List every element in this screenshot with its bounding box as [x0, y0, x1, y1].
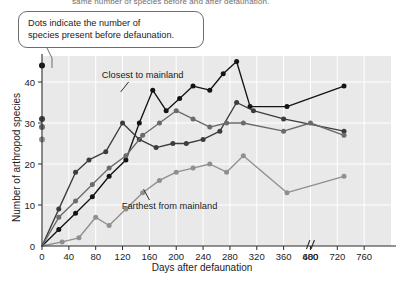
x-tick-label: 360 — [276, 251, 292, 262]
x-tick-label: 80 — [90, 251, 101, 262]
y-tick-label: 30 — [24, 118, 35, 129]
x-tick-label: 120 — [115, 251, 131, 262]
x-tick-label: 680 — [303, 251, 319, 262]
x-tick-label: 40 — [64, 251, 75, 262]
y-axis-title: Number of arthropod species — [11, 58, 22, 258]
x-tick-label: 0 — [39, 251, 44, 262]
y-tick-label: 0 — [30, 241, 35, 252]
callout-box: Dots indicate the number of species pres… — [18, 11, 204, 48]
x-tick-label: 280 — [222, 251, 238, 262]
annotation-closest-to-mainland: Closest to mainland — [102, 70, 184, 80]
x-axis-title: Days after defaunation — [0, 262, 404, 273]
x-tick-label: 320 — [249, 251, 265, 262]
x-tick-label: 720 — [329, 251, 345, 262]
callout-line-2: species present before defaunation. — [28, 29, 195, 41]
x-tick-label: 200 — [168, 251, 184, 262]
callout-line-1: Dots indicate the number of — [28, 17, 195, 29]
figure-root: same number of species before and after … — [0, 0, 404, 282]
x-tick-label: 760 — [356, 251, 372, 262]
annotation-farthest-from-mainland: Farthest from mainland — [122, 201, 218, 211]
x-tick-label: 160 — [141, 251, 157, 262]
x-tick-label: 240 — [195, 251, 211, 262]
y-tick-label: 20 — [24, 159, 35, 170]
y-tick-label: 40 — [24, 77, 35, 88]
y-tick-label: 10 — [24, 200, 35, 211]
